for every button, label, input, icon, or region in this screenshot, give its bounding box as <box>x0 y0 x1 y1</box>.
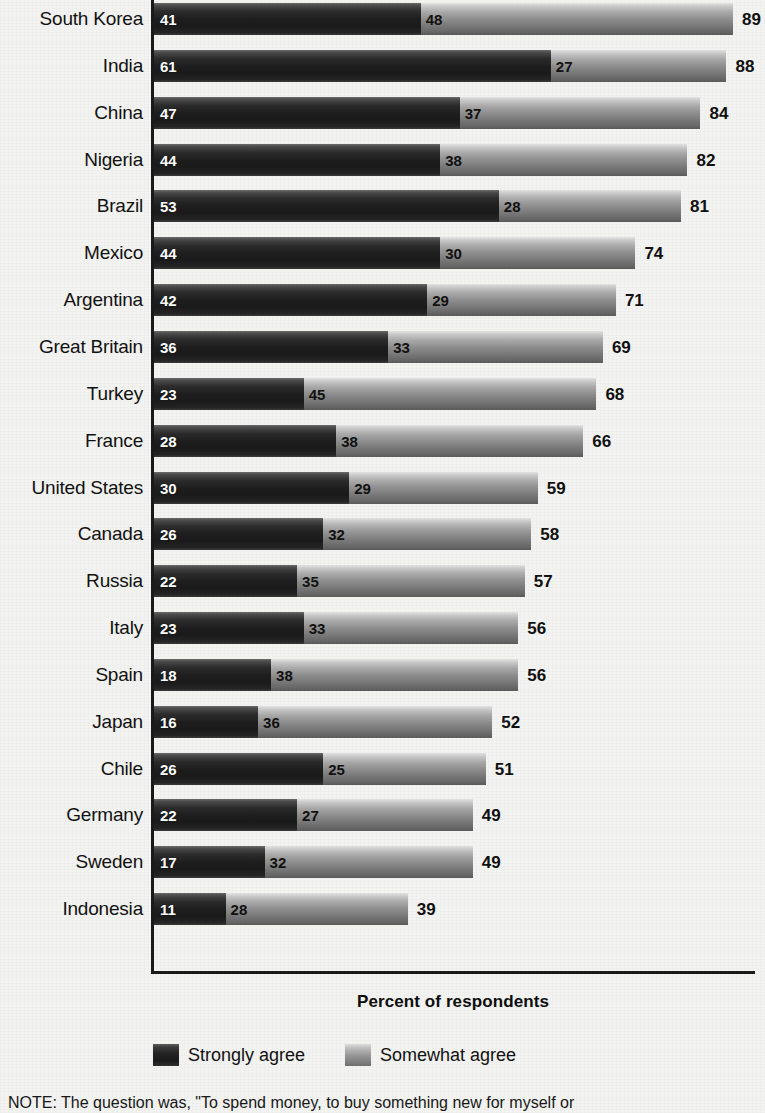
legend-label-somewhat-agree: Somewhat agree <box>380 1045 516 1066</box>
bar-segment-somewhat-agree: 27 <box>297 799 473 831</box>
segment-value-somewhat-agree: 38 <box>341 425 358 457</box>
x-axis-line <box>151 971 755 974</box>
plot-area: South Korea414889India612788China473784N… <box>0 0 765 978</box>
category-label: Sweden <box>0 846 143 878</box>
bar-segment-somewhat-agree: 48 <box>421 3 733 35</box>
bar-row: China473784 <box>0 97 765 129</box>
stacked-bar: 4229 <box>154 284 616 316</box>
stacked-bar: 2227 <box>154 799 473 831</box>
bar-row: Turkey234568 <box>0 378 765 410</box>
bar-segment-somewhat-agree: 36 <box>258 706 492 738</box>
bar-total-label: 57 <box>534 565 553 597</box>
bar-segment-somewhat-agree: 29 <box>427 284 616 316</box>
segment-value-somewhat-agree: 30 <box>445 237 462 269</box>
bar-segment-strongly-agree: 17 <box>154 846 265 878</box>
category-label: China <box>0 97 143 129</box>
segment-value-strongly-agree: 11 <box>160 893 176 925</box>
bar-total-label: 69 <box>612 331 631 363</box>
segment-value-somewhat-agree: 32 <box>270 846 287 878</box>
bar-row: Spain183856 <box>0 659 765 691</box>
bar-row: Mexico443074 <box>0 237 765 269</box>
bar-segment-strongly-agree: 22 <box>154 799 297 831</box>
segment-value-somewhat-agree: 28 <box>504 190 521 222</box>
bar-total-label: 88 <box>735 50 754 82</box>
bar-segment-strongly-agree: 26 <box>154 518 323 550</box>
segment-value-strongly-agree: 28 <box>160 425 177 457</box>
bar-row: India612788 <box>0 50 765 82</box>
segment-value-somewhat-agree: 29 <box>354 472 371 504</box>
bar-segment-somewhat-agree: 32 <box>323 518 531 550</box>
stacked-bar: 1732 <box>154 846 473 878</box>
bar-segment-strongly-agree: 41 <box>154 3 421 35</box>
category-label: United States <box>0 472 143 504</box>
bar-row: France283866 <box>0 425 765 457</box>
segment-value-strongly-agree: 42 <box>160 284 177 316</box>
category-label: Russia <box>0 565 143 597</box>
bar-total-label: 51 <box>495 753 514 785</box>
bar-segment-strongly-agree: 18 <box>154 659 271 691</box>
stacked-bar: 6127 <box>154 50 726 82</box>
bar-total-label: 56 <box>527 612 546 644</box>
stacked-bar: 1838 <box>154 659 518 691</box>
bar-segment-strongly-agree: 23 <box>154 612 304 644</box>
category-label: Argentina <box>0 284 143 316</box>
bar-row: Great Britain363369 <box>0 331 765 363</box>
chart-legend: Strongly agree Somewhat agree <box>151 1041 755 1069</box>
segment-value-strongly-agree: 61 <box>160 50 177 82</box>
segment-value-strongly-agree: 18 <box>160 659 177 691</box>
bar-segment-somewhat-agree: 45 <box>304 378 597 410</box>
segment-value-somewhat-agree: 35 <box>302 565 319 597</box>
legend-swatch-strongly-agree-icon <box>153 1044 179 1066</box>
category-label: Chile <box>0 753 143 785</box>
bar-segment-strongly-agree: 16 <box>154 706 258 738</box>
bar-segment-somewhat-agree: 33 <box>304 612 519 644</box>
stacked-bar: 2235 <box>154 565 525 597</box>
bar-segment-strongly-agree: 42 <box>154 284 427 316</box>
segment-value-strongly-agree: 36 <box>160 331 177 363</box>
category-label: Spain <box>0 659 143 691</box>
segment-value-somewhat-agree: 37 <box>465 97 482 129</box>
segment-value-strongly-agree: 23 <box>160 378 177 410</box>
bar-segment-somewhat-agree: 27 <box>551 50 727 82</box>
bar-total-label: 39 <box>417 893 436 925</box>
category-label: France <box>0 425 143 457</box>
bar-row: Canada263258 <box>0 518 765 550</box>
category-label: Canada <box>0 518 143 550</box>
stacked-bar: 5328 <box>154 190 681 222</box>
stacked-bar: 2625 <box>154 753 486 785</box>
legend-label-strongly-agree: Strongly agree <box>188 1045 305 1066</box>
bar-segment-somewhat-agree: 37 <box>460 97 701 129</box>
bar-total-label: 49 <box>482 799 501 831</box>
legend-swatch-somewhat-agree-icon <box>345 1044 371 1066</box>
segment-value-strongly-agree: 30 <box>160 472 177 504</box>
bar-segment-strongly-agree: 36 <box>154 331 388 363</box>
segment-value-strongly-agree: 16 <box>160 706 177 738</box>
bar-segment-strongly-agree: 28 <box>154 425 336 457</box>
bar-total-label: 84 <box>709 97 728 129</box>
bar-segment-strongly-agree: 23 <box>154 378 304 410</box>
bar-row: United States302959 <box>0 472 765 504</box>
segment-value-strongly-agree: 41 <box>160 3 177 35</box>
category-label: India <box>0 50 143 82</box>
bar-row: Italy233356 <box>0 612 765 644</box>
stacked-bar: 4438 <box>154 144 687 176</box>
segment-value-strongly-agree: 17 <box>160 846 177 878</box>
bar-row: Brazil532881 <box>0 190 765 222</box>
segment-value-somewhat-agree: 45 <box>309 378 326 410</box>
bar-row: Chile262551 <box>0 753 765 785</box>
bar-total-label: 74 <box>644 237 663 269</box>
bar-segment-somewhat-agree: 38 <box>336 425 583 457</box>
bar-total-label: 66 <box>592 425 611 457</box>
stacked-bar: 2345 <box>154 378 596 410</box>
stacked-bar: 2632 <box>154 518 531 550</box>
segment-value-somewhat-agree: 27 <box>556 50 573 82</box>
bar-row: Germany222749 <box>0 799 765 831</box>
category-label: Turkey <box>0 378 143 410</box>
category-label: Indonesia <box>0 893 143 925</box>
bar-row: Nigeria443882 <box>0 144 765 176</box>
segment-value-somewhat-agree: 32 <box>328 518 345 550</box>
bar-segment-strongly-agree: 61 <box>154 50 551 82</box>
bar-total-label: 49 <box>482 846 501 878</box>
bar-segment-somewhat-agree: 32 <box>265 846 473 878</box>
segment-value-somewhat-agree: 27 <box>302 799 319 831</box>
